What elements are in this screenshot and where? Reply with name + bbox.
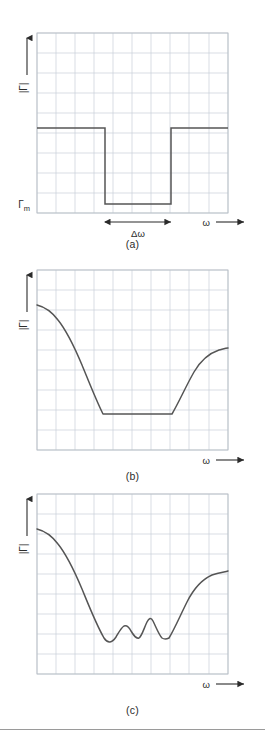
- response-curve-equiripple: [37, 529, 228, 642]
- page-bottom-rule: [0, 729, 265, 730]
- x-axis-label: ω: [203, 217, 211, 228]
- plot-frame: [37, 270, 228, 450]
- grid-lines: [37, 33, 228, 213]
- panel-a-plot: |Γ| Γm Δω ω: [0, 0, 265, 262]
- panel-a-caption: (a): [0, 238, 265, 250]
- y-axis-label: |Γ|: [18, 544, 29, 555]
- plot-frame: [37, 33, 228, 213]
- panel-c-plot: |Γ| ω: [0, 490, 265, 732]
- panel-a: |Γ| Γm Δω ω (a): [0, 0, 265, 262]
- x-axis-label: ω: [203, 455, 211, 466]
- grid-lines: [37, 270, 228, 450]
- x-axis-label: ω: [203, 679, 211, 690]
- panel-b-plot: |Γ| ω: [0, 258, 265, 498]
- response-curve-ideal: [37, 128, 228, 204]
- figure-stack: |Γ| Γm Δω ω (a): [0, 0, 265, 732]
- response-curve-maxflat: [37, 305, 228, 414]
- min-level-label: Γm: [18, 199, 30, 213]
- y-axis-label: |Γ|: [18, 320, 29, 331]
- panel-b-caption: (b): [0, 470, 265, 482]
- y-axis-label: |Γ|: [18, 83, 29, 94]
- panel-b: |Γ| ω (b): [0, 258, 265, 498]
- min-level-subscript: m: [24, 204, 30, 213]
- panel-c-caption: (c): [0, 704, 265, 716]
- panel-c: |Γ| ω (c): [0, 490, 265, 732]
